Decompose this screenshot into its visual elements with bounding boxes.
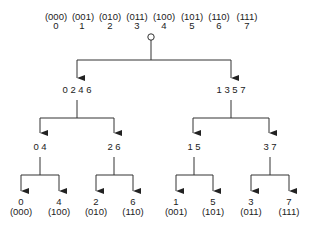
header-decimal-6: 6 xyxy=(216,20,221,31)
leaf-3-binary: (110) xyxy=(122,206,143,217)
leaf-0-binary: (000) xyxy=(10,206,32,217)
header-decimal-4: 4 xyxy=(161,20,166,31)
leaf-6-binary: (011) xyxy=(240,206,261,217)
header-decimal-1: 1 xyxy=(79,20,84,31)
header-decimal-0: 0 xyxy=(53,20,58,31)
level2-node-0: 0 4 xyxy=(33,141,46,152)
level1-node-even: 0 2 4 6 xyxy=(62,84,91,95)
leaf-7-binary: (111) xyxy=(279,206,300,217)
level2-node-2: 1 5 xyxy=(187,141,200,152)
header-decimal-7: 7 xyxy=(244,20,249,31)
leaf-5-binary: (101) xyxy=(202,206,224,217)
level2-node-3: 3 7 xyxy=(263,141,276,152)
header-decimal-5: 5 xyxy=(189,20,194,31)
root-node-icon xyxy=(148,34,154,40)
leaf-4-binary: (001) xyxy=(165,206,187,217)
header-decimal-2: 2 xyxy=(107,20,112,31)
leaf-2-binary: (010) xyxy=(85,206,107,217)
header-decimal-3: 3 xyxy=(134,20,139,31)
level1-node-odd: 1 3 5 7 xyxy=(216,84,245,95)
level2-node-1: 2 6 xyxy=(107,141,120,152)
leaf-1-binary: (100) xyxy=(48,206,70,217)
tree-lines xyxy=(0,0,314,233)
